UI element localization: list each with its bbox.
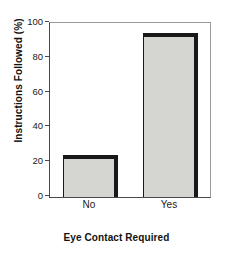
y-tick-label: 60 xyxy=(32,86,43,97)
x-axis-label-yes: Yes xyxy=(139,199,199,210)
bar-chart-figure: 020406080100 Instructions Followed (%) N… xyxy=(0,0,233,256)
y-tick-label: 20 xyxy=(32,155,43,166)
y-tick-label: 0 xyxy=(38,190,43,201)
y-axis: 020406080100 xyxy=(0,22,49,196)
bar-yes xyxy=(143,33,198,197)
x-axis: NoYes xyxy=(49,199,211,215)
y-tick-label: 40 xyxy=(32,120,43,131)
y-tick-label: 100 xyxy=(27,16,43,27)
x-axis-title: Eye Contact Required xyxy=(0,232,233,243)
y-axis-title: Instructions Followed (%) xyxy=(13,1,24,161)
bar-no xyxy=(63,155,118,197)
y-tick-label: 80 xyxy=(32,51,43,62)
x-axis-label-no: No xyxy=(59,199,119,210)
plot-area xyxy=(49,22,211,198)
